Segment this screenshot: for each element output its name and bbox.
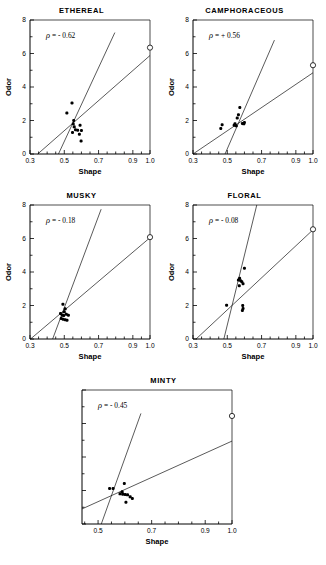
data-point bbox=[78, 133, 81, 136]
y-tick-label: 4 bbox=[22, 268, 26, 275]
data-point bbox=[61, 303, 64, 306]
x-tick-label: 0.9 bbox=[291, 157, 300, 164]
correlation-annotation: ρ= - 0.08 bbox=[208, 216, 239, 225]
plot-frame bbox=[193, 20, 313, 154]
correlation-annotation: ρ= - 0.18 bbox=[45, 216, 76, 225]
x-tick-label: 0.7 bbox=[257, 157, 266, 164]
regression-shallow-line bbox=[38, 56, 150, 154]
plot-area: 02468Odor0.30.50.70.91.0Shapeρ= - 0.18 bbox=[0, 191, 163, 371]
data-point bbox=[221, 123, 224, 126]
data-point bbox=[64, 307, 67, 310]
data-point bbox=[65, 111, 68, 114]
data-point bbox=[219, 127, 222, 130]
x-tick-label: 0.9 bbox=[201, 527, 210, 534]
data-point bbox=[76, 129, 79, 132]
correlation-annotation: ρ= + 0.56 bbox=[208, 31, 240, 40]
data-point bbox=[108, 487, 111, 490]
data-point bbox=[123, 482, 126, 485]
x-tick-label: 0.9 bbox=[128, 157, 137, 164]
data-point bbox=[242, 282, 245, 285]
y-axis-title: Odor bbox=[4, 263, 13, 281]
x-tick-label: 0.9 bbox=[291, 342, 300, 349]
y-tick-label: 2 bbox=[185, 117, 189, 124]
y-tick-label: 6 bbox=[22, 235, 26, 242]
x-axis-title: Shape bbox=[79, 352, 102, 361]
plot-area: 02468Odor0.30.50.70.91.0Shapeρ= + 0.56 bbox=[163, 6, 326, 186]
reference-point-marker bbox=[147, 45, 152, 50]
data-point bbox=[71, 131, 74, 134]
x-tick-label: 1.0 bbox=[145, 157, 154, 164]
x-tick-label: 0.5 bbox=[93, 527, 102, 534]
y-tick-label: 4 bbox=[185, 268, 189, 275]
y-tick-label: 2 bbox=[22, 302, 26, 309]
data-point bbox=[243, 267, 246, 270]
x-tick-label: 0.3 bbox=[188, 157, 197, 164]
regression-steep-line bbox=[58, 33, 114, 154]
data-point bbox=[63, 310, 66, 313]
data-point bbox=[66, 319, 69, 322]
x-tick-label: 1.0 bbox=[227, 527, 236, 534]
x-tick-label: 0.7 bbox=[257, 342, 266, 349]
x-tick-label: 0.7 bbox=[94, 157, 103, 164]
data-point bbox=[67, 314, 70, 317]
x-axis-title: Shape bbox=[79, 167, 102, 176]
plot-frame bbox=[30, 20, 150, 154]
y-axis-title: Odor bbox=[167, 78, 176, 96]
y-tick-label: 8 bbox=[185, 201, 189, 208]
plot-area: 02468Odor0.30.50.70.91.0Shapeρ= - 0.08 bbox=[163, 191, 326, 371]
y-axis-title: Odor bbox=[167, 263, 176, 281]
data-point bbox=[243, 121, 246, 124]
regression-shallow-line bbox=[82, 441, 232, 509]
x-tick-label: 0.7 bbox=[94, 342, 103, 349]
data-point bbox=[225, 304, 228, 307]
data-point bbox=[112, 487, 115, 490]
y-tick-label: 2 bbox=[185, 302, 189, 309]
odor-shape-correlation-figure: ETHEREAL 02468Odor0.30.50.70.91.0Shapeρ=… bbox=[0, 0, 326, 565]
y-tick-label: 2 bbox=[22, 117, 26, 124]
y-tick-label: 4 bbox=[185, 83, 189, 90]
data-point bbox=[72, 119, 75, 122]
data-point bbox=[71, 101, 74, 104]
y-tick-label: 4 bbox=[22, 83, 26, 90]
data-point bbox=[124, 501, 127, 504]
x-axis-title: Shape bbox=[146, 537, 169, 546]
data-point bbox=[73, 125, 76, 128]
reference-point-marker bbox=[229, 413, 234, 418]
plot-frame bbox=[30, 205, 150, 339]
reference-point-marker bbox=[147, 235, 152, 240]
x-tick-label: 1.0 bbox=[308, 342, 317, 349]
data-point bbox=[62, 314, 65, 317]
panel-floral: FLORAL 02468Odor0.30.50.70.91.0Shapeρ= -… bbox=[163, 191, 326, 371]
x-tick-label: 1.0 bbox=[145, 342, 154, 349]
data-point bbox=[237, 113, 240, 116]
data-point bbox=[72, 122, 75, 125]
x-tick-label: 0.3 bbox=[25, 157, 34, 164]
data-point bbox=[238, 284, 241, 287]
x-tick-label: 0.5 bbox=[60, 157, 69, 164]
y-tick-label: 6 bbox=[22, 50, 26, 57]
panel-camphoraceous: CAMPHORACEOUS 02468Odor0.30.50.70.91.0Sh… bbox=[163, 6, 326, 186]
x-tick-label: 1.0 bbox=[308, 157, 317, 164]
x-tick-label: 0.3 bbox=[188, 342, 197, 349]
data-point bbox=[126, 493, 129, 496]
data-point bbox=[80, 129, 83, 132]
plot-frame bbox=[82, 390, 232, 524]
plot-area: 02468Odor0.30.50.70.91.0Shapeρ= - 0.62 bbox=[0, 6, 163, 186]
regression-shallow-line bbox=[31, 238, 150, 339]
regression-steep-line bbox=[224, 205, 257, 339]
data-point bbox=[79, 124, 82, 127]
panel-minty: MINTY 0.50.70.91.0Shapeρ= - 0.45 bbox=[82, 376, 245, 556]
x-tick-label: 0.7 bbox=[147, 527, 156, 534]
data-point bbox=[238, 106, 241, 109]
x-tick-label: 0.3 bbox=[25, 342, 34, 349]
regression-shallow-line bbox=[196, 230, 313, 339]
y-axis-title: Odor bbox=[4, 78, 13, 96]
y-tick-label: 6 bbox=[185, 50, 189, 57]
plot-frame bbox=[193, 205, 313, 339]
regression-steep-line bbox=[101, 413, 141, 524]
x-tick-label: 0.9 bbox=[128, 342, 137, 349]
x-tick-label: 0.5 bbox=[60, 342, 69, 349]
reference-point-marker bbox=[310, 63, 315, 68]
data-point bbox=[119, 492, 122, 495]
x-tick-label: 0.5 bbox=[223, 157, 232, 164]
